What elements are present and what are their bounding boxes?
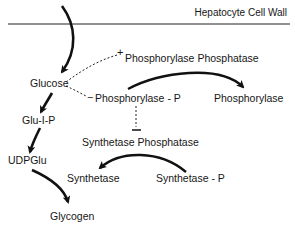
- node-glucose: Glucose: [30, 77, 69, 89]
- arrow-phosphorylase-p-to-phosphorylase: [128, 73, 243, 89]
- node-phosphorylase-p: Phosphorylase - P: [95, 92, 181, 104]
- node-phosphorylase: Phosphorylase: [214, 92, 283, 104]
- node-synthetase-p: Synthetase - P: [156, 172, 225, 184]
- activation-sign: +: [117, 46, 123, 58]
- arrow-udpglu-to-glycogen: [32, 170, 68, 202]
- node-glu1p: Glu-I-P: [22, 114, 55, 126]
- node-synthetase: Synthetase: [67, 172, 120, 184]
- node-synthetase-phosphatase: Synthetase Phosphatase: [82, 136, 199, 148]
- arrow-synthetase-p-to-synthetase: [100, 155, 186, 172]
- arrow-glucose-to-glu1p: [41, 93, 52, 112]
- inhibition-sign: −: [87, 91, 93, 103]
- arrow-glu1p-to-udpglu: [30, 128, 40, 152]
- dashed-activation-glucose-phosphatase: [66, 55, 117, 82]
- glycogen-metabolism-diagram: Hepatocyte Cell Wall Glucose Glu-I-P UDP…: [0, 0, 295, 230]
- node-phosphorylase-phosphatase: Phosphorylase Phosphatase: [125, 52, 259, 64]
- node-udpglu: UDPGlu: [8, 154, 47, 166]
- cell-wall-label: Hepatocyte Cell Wall: [195, 7, 287, 19]
- node-glycogen: Glycogen: [50, 210, 94, 222]
- arrow-outside-to-glucose: [62, 6, 73, 72]
- dashed-inhibition-glucose-phosphorylase-p: [66, 86, 86, 96]
